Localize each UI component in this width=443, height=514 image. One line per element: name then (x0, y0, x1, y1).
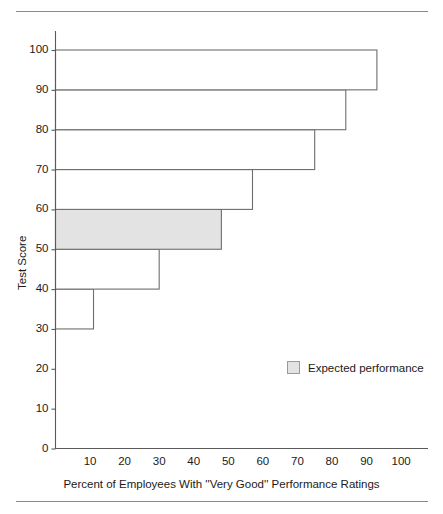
chart-svg (0, 0, 443, 514)
y-tick-label-70: 70 (36, 164, 49, 176)
y-axis-title: Test Score (16, 236, 28, 290)
expectancy-chart-figure: 0102030405060708090100 10203040506070809… (0, 0, 443, 514)
legend-label-expected-performance: Expected performance (308, 362, 424, 374)
bar-30-40 (56, 289, 94, 329)
y-tick-label-10: 10 (36, 403, 49, 415)
y-tick-label-80: 80 (36, 124, 49, 136)
bars-group (56, 50, 377, 329)
bar-50-60 (56, 209, 222, 249)
plot-area: 0102030405060708090100 10203040506070809… (0, 0, 443, 514)
y-tick-label-20: 20 (36, 363, 49, 375)
bar-60-70 (56, 170, 253, 210)
y-tick-label-50: 50 (36, 243, 49, 255)
bar-90-100 (56, 50, 377, 90)
y-tick-label-40: 40 (36, 283, 49, 295)
bar-80-90 (56, 90, 346, 130)
y-tick-label-90: 90 (36, 84, 49, 96)
legend-swatch-expected-performance (287, 361, 300, 374)
bar-70-80 (56, 130, 315, 170)
y-tick-label-0: 0 (42, 443, 48, 455)
x-axis-title: Percent of Employees With ''Very Good'' … (0, 478, 443, 490)
x-tick-label-100: 100 (381, 456, 421, 468)
y-axis-ticks (52, 51, 56, 450)
y-tick-label-30: 30 (36, 323, 49, 335)
chart-legend: Expected performance (287, 361, 424, 374)
bar-40-50 (56, 249, 160, 289)
y-tick-label-60: 60 (36, 203, 49, 215)
y-tick-label-100: 100 (29, 44, 48, 56)
